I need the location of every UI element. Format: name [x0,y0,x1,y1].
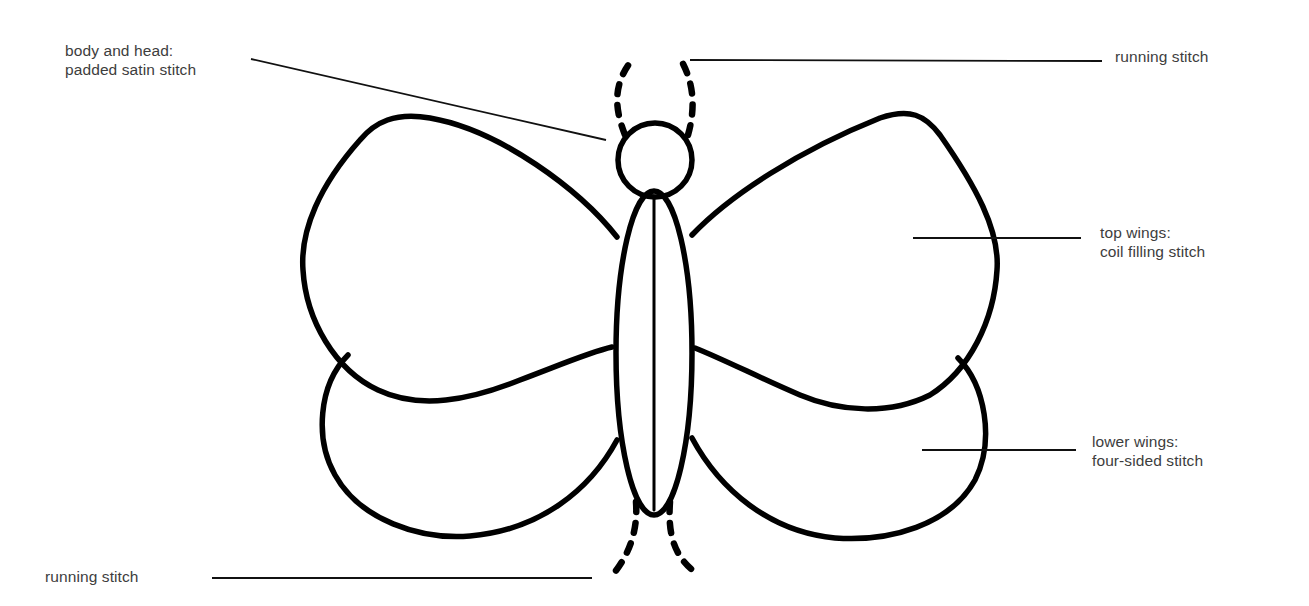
body [616,191,692,515]
label-bottom-running-stitch: running stitch [45,567,139,586]
leader-top-running [690,60,1102,61]
tail-right [670,502,695,572]
tail-left [610,502,636,578]
top-wings [303,113,998,408]
butterfly-diagram [0,0,1309,606]
label-lower-wings: lower wings: four-sided stitch [1092,432,1203,470]
head [618,123,692,197]
leader-body-head [251,59,606,140]
label-bottom-running-line1: running stitch [45,567,139,586]
label-body-head-line2: padded satin stitch [65,60,196,79]
label-top-running-line1: running stitch [1115,47,1209,66]
label-body-head-line1: body and head: [65,41,196,60]
label-top-wings-line2: coil filling stitch [1100,242,1205,261]
label-lower-wings-line1: lower wings: [1092,432,1203,451]
antenna-left [617,60,632,135]
label-body-head: body and head: padded satin stitch [65,41,196,79]
antenna-right [681,60,693,135]
label-top-wings: top wings: coil filling stitch [1100,223,1205,261]
label-top-running-stitch: running stitch [1115,47,1209,66]
top-wing-left [303,116,617,401]
leader-lines [212,59,1102,578]
label-lower-wings-line2: four-sided stitch [1092,451,1203,470]
label-top-wings-line1: top wings: [1100,223,1205,242]
top-wing-right [692,113,997,408]
